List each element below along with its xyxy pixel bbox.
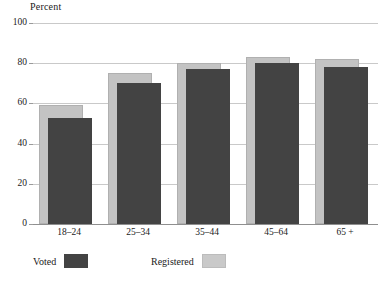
bar-voted-18-24[interactable] [48,118,92,225]
y-tick-mark-0 [29,224,33,225]
bar-voted-35-44[interactable] [186,69,230,224]
bar-group-65-plus: 65 + [315,23,375,224]
y-tick-label-40: 40 [18,139,28,149]
bar-voted-65-plus[interactable] [324,67,368,224]
x-tick-label-3: 45–64 [246,228,306,238]
x-tick-label-0: 18–24 [39,228,99,238]
x-tick-label-4: 65 + [315,228,375,238]
bar-group-25-34: 25–34 [108,23,168,224]
legend-item-registered: Registered [151,253,226,269]
x-tick-label-2: 35–44 [177,228,237,238]
x-tick-label-1: 25–34 [108,228,168,238]
axis-baseline [33,224,378,225]
y-axis-title: Percent [30,1,61,12]
bar-group-45-64: 45–64 [246,23,306,224]
bar-group-18-24: 18–24 [39,23,99,224]
bar-voted-25-34[interactable] [117,83,161,224]
y-tick-label-0: 0 [22,219,27,229]
y-tick-label-100: 100 [13,18,27,28]
legend-swatch-registered [202,254,226,268]
plot-area: 0 20 40 60 80 100 18–24 25–34 [33,23,378,224]
chart-figure: Percent 0 20 40 60 80 100 18–24 [0,0,388,288]
bar-group-35-44: 35–44 [177,23,237,224]
y-tick-label-60: 60 [18,99,28,109]
chart-legend: Voted Registered [33,253,378,273]
legend-label-voted: Voted [33,256,56,267]
bar-groups: 18–24 25–34 35–44 45–64 65 + [33,23,378,224]
legend-item-voted: Voted [33,253,88,269]
y-tick-label-20: 20 [18,179,28,189]
legend-swatch-voted [64,254,88,268]
y-tick-label-80: 80 [18,58,28,68]
bar-voted-45-64[interactable] [255,63,299,224]
legend-label-registered: Registered [151,256,194,267]
